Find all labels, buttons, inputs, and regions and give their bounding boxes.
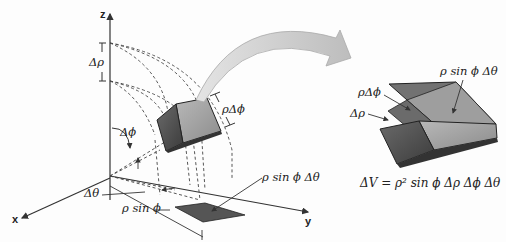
spherical-volume-element-diagram: z x y Δρ ρΔϕ Δϕ Δθ ρ	[0, 0, 506, 242]
right-delta-rho-label: Δρ	[349, 106, 365, 120]
delta-rho-label: Δρ	[88, 55, 104, 69]
rho-sin-phi-label: ρ sin ϕ	[121, 201, 161, 215]
floor-projection	[175, 203, 245, 222]
floor-label: ρ sin ϕ Δθ	[261, 170, 320, 184]
right-rho-sin-phi-delta-theta-label: ρ sin ϕ Δθ	[439, 64, 498, 78]
delta-phi-label: Δϕ	[119, 125, 136, 139]
right-delta-rho-leader	[368, 114, 388, 120]
right-volume-element	[380, 82, 498, 168]
delta-theta-label: Δθ	[83, 186, 99, 200]
z-axis-label: z	[100, 8, 106, 20]
magnify-arrow	[196, 30, 351, 102]
rho-delta-phi-label: ρΔϕ	[221, 102, 245, 116]
delta-theta-arrow	[162, 188, 175, 190]
volume-formula: ΔV = ρ² sin ϕ Δρ Δϕ Δθ	[359, 176, 501, 190]
right-rho-delta-phi-label: ρΔϕ	[357, 85, 381, 99]
floor-leader	[212, 178, 262, 211]
diagram-canvas: z x y Δρ ρΔϕ Δϕ Δθ ρ	[0, 0, 506, 242]
y-axis-label: y	[305, 215, 312, 227]
x-axis-label: x	[12, 213, 19, 225]
